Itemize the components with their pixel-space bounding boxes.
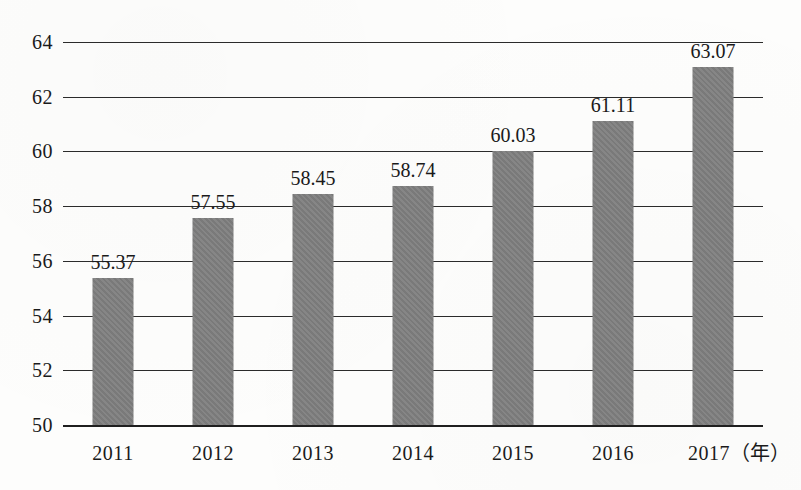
bar-value-label: 58.74 xyxy=(391,160,436,180)
bar-slot: 61.11 xyxy=(563,42,663,425)
bar-value-label: 57.55 xyxy=(191,192,236,212)
x-axis-tick-label: 2016 xyxy=(592,443,634,463)
x-axis-tick-label: 2013 xyxy=(292,443,334,463)
y-axis-tick-label: 60 xyxy=(0,141,53,161)
y-axis-tick-label: 64 xyxy=(0,32,53,52)
bars-layer: 55.3757.5558.4558.7460.0361.1163.07 xyxy=(63,42,763,425)
y-axis-tick-label: 58 xyxy=(0,196,53,216)
bar-chart: 5052545658606264 55.3757.5558.4558.7460.… xyxy=(0,0,801,490)
y-axis-tick-label: 56 xyxy=(0,251,53,271)
bar-value-label: 60.03 xyxy=(491,125,536,145)
x-axis-tick-label: 2012 xyxy=(192,443,234,463)
bar[interactable] xyxy=(493,151,534,425)
bar[interactable] xyxy=(193,218,234,425)
x-axis-tick-label: 2011 xyxy=(92,443,133,463)
bar-value-label: 58.45 xyxy=(291,168,336,188)
bar-slot: 58.45 xyxy=(263,42,363,425)
x-axis-tick-label: 2015 xyxy=(492,443,534,463)
y-axis-tick-label: 62 xyxy=(0,87,53,107)
y-axis-tick-label: 52 xyxy=(0,360,53,380)
bar-value-label: 55.37 xyxy=(91,252,136,272)
bar-slot: 57.55 xyxy=(163,42,263,425)
bar[interactable] xyxy=(93,278,134,425)
y-axis-tick-label: 50 xyxy=(0,415,53,435)
x-axis-tick-label: 2014 xyxy=(392,443,434,463)
gridline xyxy=(63,425,763,427)
bar[interactable] xyxy=(293,194,334,425)
bar-slot: 58.74 xyxy=(363,42,463,425)
bar-value-label: 61.11 xyxy=(591,95,635,115)
bar-slot: 63.07 xyxy=(663,42,763,425)
bar[interactable] xyxy=(693,67,734,425)
bar[interactable] xyxy=(593,121,634,425)
bar-slot: 55.37 xyxy=(63,42,163,425)
bar-slot: 60.03 xyxy=(463,42,563,425)
bar[interactable] xyxy=(393,186,434,425)
plot-area: 55.3757.5558.4558.7460.0361.1163.07 xyxy=(63,42,763,425)
x-axis-tick-label: 2017（年） xyxy=(688,443,790,463)
y-axis-tick-label: 54 xyxy=(0,306,53,326)
bar-value-label: 63.07 xyxy=(691,41,736,61)
